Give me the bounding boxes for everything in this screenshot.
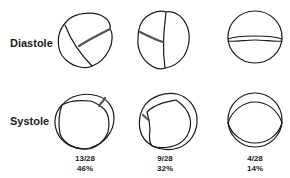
systole-valve-1 <box>55 94 114 149</box>
col3-fraction: 4/28 <box>235 154 275 164</box>
col2-percent: 32% <box>145 164 185 174</box>
valve-diagrams <box>0 0 290 178</box>
diastole-valve-3 <box>228 11 282 63</box>
diastole-valve-1 <box>58 13 112 67</box>
col3-percent: 14% <box>235 164 275 174</box>
col1-percent: 46% <box>65 164 105 174</box>
systole-valve-3 <box>228 93 282 147</box>
diastole-valve-2 <box>138 11 189 69</box>
col2-fraction: 9/28 <box>145 154 185 164</box>
systole-valve-2 <box>139 93 197 149</box>
col1-fraction: 13/28 <box>65 154 105 164</box>
